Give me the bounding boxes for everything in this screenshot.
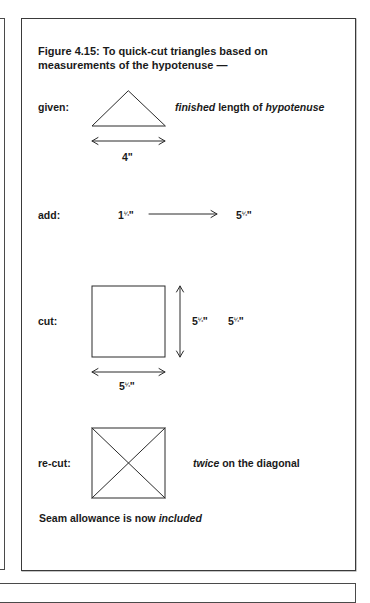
hypotenuse-dimension-arrow [92,138,165,145]
finished-triangle-shape [92,91,165,126]
bottom-panel-edge [0,583,356,603]
cut-square-shape [92,286,165,357]
cut-vertical-dimension-arrow [177,286,184,357]
add-arrow [149,211,217,218]
cut-horizontal-dimension-arrow [92,369,165,376]
recut-square-with-diagonals [92,428,165,498]
